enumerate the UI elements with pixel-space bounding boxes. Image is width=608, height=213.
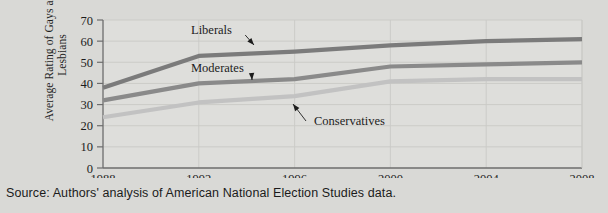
y-tick-label-40: 40: [81, 77, 94, 91]
y-axis-ticks: [97, 20, 103, 168]
x-tick-label-1988: 1988: [91, 172, 116, 178]
y-axis-tick-labels: 010203040506070: [81, 14, 94, 176]
y-tick-label-10: 10: [81, 140, 94, 154]
x-tick-label-2000: 2000: [378, 172, 403, 178]
annotation-label-conservatives: Conservatives: [314, 114, 385, 128]
annotation-label-liberals: Liberals: [191, 23, 232, 37]
y-tick-label-70: 70: [81, 14, 94, 28]
x-tick-label-1992: 1992: [186, 172, 211, 178]
x-axis-tick-labels: 198819921996200020042008: [91, 172, 595, 178]
y-tick-label-30: 30: [81, 98, 94, 112]
source-caption: Source: Authors' analysis of American Na…: [6, 186, 396, 200]
annotation-label-moderates: Moderates: [191, 61, 244, 75]
chart-figure: Average Rating of Gays and Lesbians 0102…: [0, 0, 608, 178]
x-tick-label-2008: 2008: [570, 172, 595, 178]
x-tick-label-1996: 1996: [282, 172, 307, 178]
y-tick-label-50: 50: [81, 56, 94, 70]
y-tick-label-60: 60: [81, 35, 94, 49]
x-tick-label-2004: 2004: [474, 172, 500, 178]
line-chart-plot: 010203040506070 198819921996200020042008…: [0, 0, 608, 178]
y-tick-label-20: 20: [81, 119, 94, 133]
